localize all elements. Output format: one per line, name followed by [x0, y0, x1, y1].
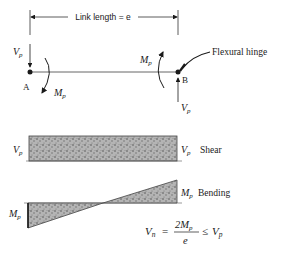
shear-right-label: Vp — [181, 144, 191, 157]
shear-diagram — [29, 136, 177, 161]
link-length-label: Link length = e — [75, 12, 131, 22]
shear-title: Shear — [200, 145, 222, 155]
bending-negative-region — [28, 203, 103, 228]
flexural-hinge-label: Flexural hinge — [212, 47, 267, 57]
link-diagram: Link length = e Vp A Mp Vp B Mp Flexural… — [0, 0, 287, 258]
bending-positive-region — [103, 180, 177, 203]
capacity-equation: Vn = 2Mp e ≤ Vp — [145, 219, 223, 246]
shear-left-label: Vp — [13, 144, 23, 157]
eq-lhs: Vn — [145, 225, 156, 239]
hinge-mark-icon — [180, 64, 185, 71]
bending-right-label: Mp — [180, 187, 193, 200]
vp-label-b: Vp — [181, 102, 191, 115]
bending-left-label: Mp — [8, 208, 21, 221]
mp-label-b: Mp — [139, 54, 152, 67]
moment-arrow-a-icon — [42, 58, 49, 93]
node-a-dot — [28, 70, 33, 75]
node-b-label: B — [182, 75, 188, 85]
node-a-label: A — [23, 82, 30, 92]
eq-numerator: 2Mp — [175, 219, 193, 232]
eq-rhs: Vp — [212, 225, 223, 239]
eq-relation: ≤ — [202, 225, 208, 237]
vp-label-a: Vp — [13, 46, 23, 59]
eq-equals: = — [162, 225, 168, 237]
bending-title: Bending — [198, 188, 230, 198]
moment-arrow-b-icon — [158, 52, 164, 88]
eq-denominator: e — [183, 235, 188, 246]
hinge-leader-line — [182, 52, 210, 69]
mp-label-a: Mp — [53, 87, 66, 100]
